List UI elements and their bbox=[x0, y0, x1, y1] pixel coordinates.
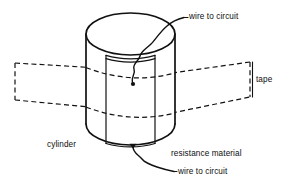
cylinder-top-face bbox=[86, 13, 175, 55]
tape-left-wing bbox=[15, 63, 90, 107]
label-tape: tape bbox=[256, 76, 272, 84]
tape-right-wing bbox=[172, 62, 250, 113]
wire-bottom-contact-point bbox=[130, 144, 137, 149]
label-cylinder: cylinder bbox=[47, 141, 76, 149]
diagram-canvas bbox=[0, 0, 283, 189]
label-wire-to-circuit-bottom: wire to circuit bbox=[178, 168, 227, 176]
technical-diagram: wire to circuit tape cylinder resistance… bbox=[0, 0, 283, 189]
wire-top-contact-point bbox=[131, 82, 135, 86]
wire-bottom bbox=[130, 144, 175, 172]
cylinder bbox=[86, 13, 175, 145]
label-resistance-material: resistance material bbox=[171, 150, 242, 158]
label-wire-to-circuit-top: wire to circuit bbox=[189, 13, 238, 21]
